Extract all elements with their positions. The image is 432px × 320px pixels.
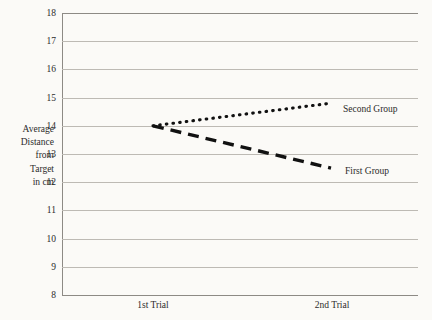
x-tick-label-2nd-trial: 2nd Trial — [292, 300, 372, 311]
y-tick-label-13: 13 — [30, 149, 56, 159]
y-tick-label-11: 11 — [30, 205, 56, 215]
gridline-14 — [62, 126, 418, 127]
series-label-second-group: Second Group — [343, 104, 398, 115]
y-tick-label-18: 18 — [30, 8, 56, 18]
gridline-18 — [62, 13, 418, 14]
gridline-12 — [62, 182, 418, 183]
x-tick-label-1st-trial: 1st Trial — [113, 300, 193, 311]
gridline-13 — [62, 154, 418, 155]
gridline-8-baseline — [62, 295, 418, 296]
gridline-10 — [62, 239, 418, 240]
y-tick-label-10: 10 — [30, 234, 56, 244]
y-tick-label-14: 14 — [30, 121, 56, 131]
plot-area — [62, 13, 418, 295]
y-axis-ticks: 18 17 16 15 14 13 12 11 10 9 8 — [26, 13, 56, 295]
gridline-11 — [62, 210, 418, 211]
y-tick-label-16: 16 — [30, 64, 56, 74]
y-tick-label-17: 17 — [30, 36, 56, 46]
chart-figure: Average Distance from Target in cm 18 17… — [0, 0, 432, 320]
series-label-first-group: First Group — [345, 166, 389, 177]
y-tick-label-12: 12 — [30, 177, 56, 187]
gridline-15 — [62, 98, 418, 99]
gridline-17 — [62, 41, 418, 42]
y-tick-label-9: 9 — [30, 262, 56, 272]
gridline-16 — [62, 69, 418, 70]
y-tick-label-8: 8 — [30, 290, 56, 300]
gridline-9 — [62, 267, 418, 268]
y-tick-label-15: 15 — [30, 93, 56, 103]
